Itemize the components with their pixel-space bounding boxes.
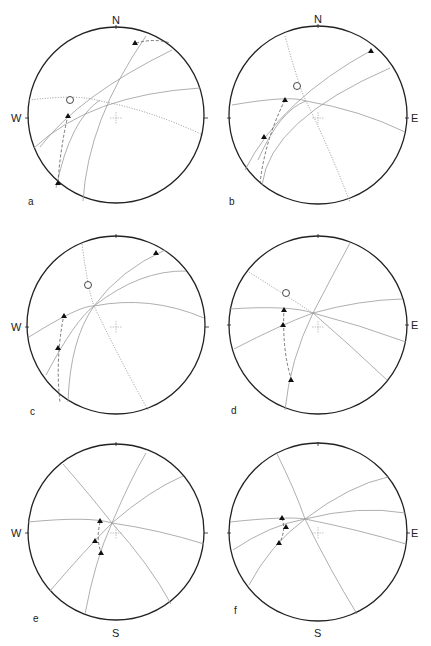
compass-south: S	[314, 627, 321, 639]
compass-north: N	[112, 14, 120, 26]
compass-east: E	[411, 319, 418, 331]
center-cross-icon	[110, 527, 122, 539]
stereonet-panel-c: W c	[11, 234, 209, 417]
compass-west: W	[11, 112, 22, 124]
panel-label-e: e	[33, 613, 39, 624]
pole-circle	[294, 83, 301, 90]
panel-label-f: f	[234, 605, 237, 616]
pole-triangle	[276, 540, 282, 545]
panel-label-b: b	[229, 196, 235, 207]
pole-triangle	[98, 550, 104, 555]
pole-triangle	[55, 345, 61, 350]
pole-triangle	[368, 48, 374, 53]
stereonet-figure: N W a N E b	[0, 0, 431, 646]
pole-triangle	[288, 377, 294, 382]
compass-east: E	[411, 527, 418, 539]
compass-east: E	[411, 112, 418, 124]
center-cross-icon	[110, 112, 122, 124]
compass-south: S	[112, 627, 119, 639]
pole-circle	[283, 290, 290, 297]
panel-label-c: c	[30, 406, 35, 417]
stereonet-panel-e: W S e	[11, 442, 208, 639]
pole-circle	[67, 97, 74, 104]
center-cross-icon	[110, 321, 122, 333]
compass-north: N	[314, 13, 322, 25]
center-cross-icon	[312, 321, 324, 333]
pole-triangle	[282, 97, 288, 102]
stereonet-panel-b: N E b	[227, 13, 418, 207]
pole-triangle	[153, 250, 159, 255]
stereonet-panel-a: N W a	[11, 14, 208, 207]
panel-label-a: a	[28, 196, 34, 207]
pole-triangle	[283, 524, 289, 529]
compass-west: W	[11, 527, 22, 539]
compass-west: W	[11, 321, 22, 333]
stereonet-panel-d: E d	[227, 234, 418, 416]
stereonet-panel-f: E S f	[227, 442, 418, 639]
panel-label-d: d	[231, 405, 237, 416]
pole-triangle	[279, 515, 285, 520]
pole-circle	[85, 282, 92, 289]
center-cross-icon	[312, 112, 324, 124]
